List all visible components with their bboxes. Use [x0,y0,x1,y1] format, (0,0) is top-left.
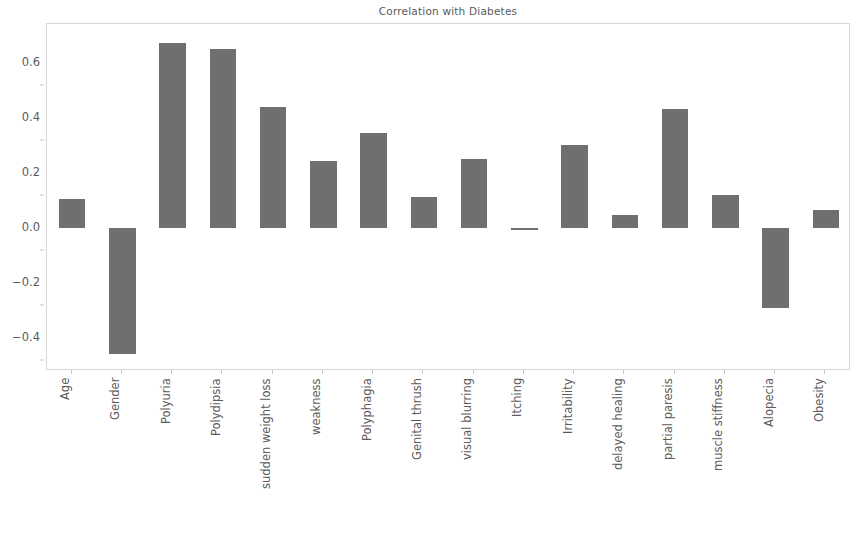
bar [109,228,136,355]
x-tick-label: sudden weight loss [259,378,273,489]
x-tick-mark [221,370,222,374]
x-tick-label: Age [58,378,72,400]
x-tick-label: Obesity [812,378,826,422]
x-tick-mark [422,370,423,374]
bars-container [47,24,849,369]
y-tick-mark [40,139,44,140]
x-tick-label: Itching [510,378,524,417]
bar [561,145,588,227]
y-tick-mark [40,84,44,85]
y-tick-mark [40,249,44,250]
bar [762,228,789,308]
x-tick-label: Polyuria [159,378,173,424]
y-tick-label: 0.6 [22,55,40,69]
x-tick-label: Alopecia [762,378,776,427]
bar [461,159,488,228]
x-tick-mark [473,370,474,374]
y-tick-label: 0.0 [22,220,40,234]
x-tick-label: Gender [108,378,122,420]
y-tick-label: 0.2 [22,165,40,179]
x-tick-mark [724,370,725,374]
plot-area [46,23,850,370]
x-tick-label: visual blurring [460,378,474,460]
bar [662,109,689,228]
x-tick-mark [71,370,72,374]
y-tick-label: −0.4 [12,330,40,344]
y-axis: 0.60.40.20.0−0.2−0.4 [0,23,40,370]
chart-title: Correlation with Diabetes [46,5,850,17]
x-tick-label: delayed healing [611,378,625,470]
y-tick-mark [40,359,44,360]
chart-figure: Correlation with Diabetes 0.60.40.20.0−0… [0,0,863,537]
x-tick-mark [523,370,524,374]
y-tick-label: −0.2 [12,275,40,289]
x-tick-mark [121,370,122,374]
x-tick-mark [171,370,172,374]
x-axis: AgeGenderPolyuriaPolydipsiasudden weight… [46,372,850,537]
x-tick-label: partial paresis [661,378,675,460]
x-tick-mark [623,370,624,374]
x-tick-label: muscle stiffness [711,378,725,471]
bar [210,49,237,228]
bar [310,161,337,228]
x-tick-label: Irritability [561,378,575,434]
x-tick-label: weakness [309,378,323,435]
x-tick-mark [372,370,373,374]
x-tick-mark [774,370,775,374]
x-tick-mark [573,370,574,374]
x-tick-mark [322,370,323,374]
bar [712,195,739,228]
x-tick-mark [674,370,675,374]
bar [813,210,840,228]
bar [59,199,86,228]
y-tick-label: 0.4 [22,110,40,124]
bar [360,133,387,227]
bar [411,197,438,228]
x-tick-mark [272,370,273,374]
bar [612,215,639,227]
bar [159,43,186,228]
x-tick-label: Polyphagia [360,378,374,441]
x-tick-label: Genital thrush [410,378,424,460]
bar [511,228,538,230]
x-tick-mark [824,370,825,374]
y-tick-mark [40,304,44,305]
x-tick-label: Polydipsia [209,378,223,436]
bar [260,107,287,228]
y-tick-mark [40,194,44,195]
